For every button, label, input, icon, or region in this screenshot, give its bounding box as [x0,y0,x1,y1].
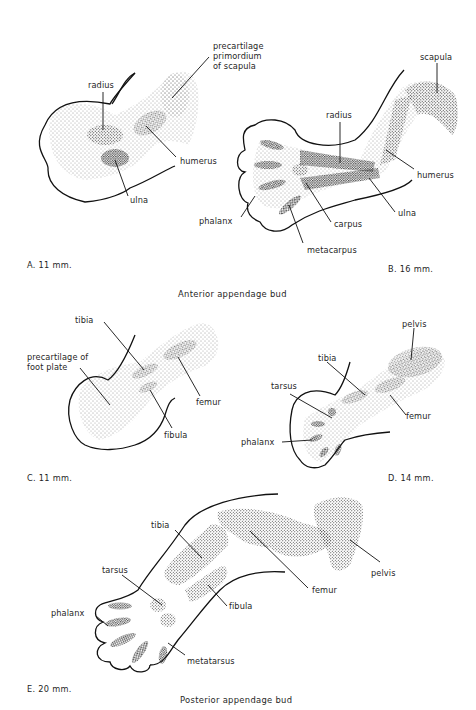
panel-e-leader-tarsus [122,575,162,605]
panel-d-drawing [282,328,446,468]
panel-e-leader-fibula [208,585,227,606]
label-b-scapula: scapula [420,52,452,62]
label-c-fibula: fibula [164,430,187,440]
caption-panel-d: D. 14 mm. [388,473,434,483]
label-e-pelvis: pelvis [371,568,396,578]
label-b-humerus: humerus [417,170,454,180]
label-b-metacarpus: metacarpus [307,245,357,255]
panel-b-drawing [238,63,458,243]
panel-c-limb [79,323,219,440]
label-b-phalanx: phalanx [199,216,232,226]
label-e-fibula: fibula [229,601,252,611]
label-d-femur: femur [406,411,431,421]
panel-e-leader-phalanx [96,616,108,626]
caption-panel-b: B. 16 mm. [388,264,433,274]
label-e-phalanx: phalanx [51,608,84,618]
panel-e-digits [105,598,176,665]
section-title-anterior: Anterior appendage bud [178,289,287,299]
label-c-femur: femur [196,397,221,407]
label-e-tibia: tibia [151,520,169,530]
panel-c-drawing [69,322,219,450]
label-e-femur: femur [312,585,337,595]
panel-b-leader-metacarpus [289,205,303,243]
panel-e-drawing [95,494,380,672]
label-d-phalanx: phalanx [241,437,274,447]
caption-panel-e: E. 20 mm. [27,684,72,694]
caption-panel-a: A. 11 mm. [27,260,72,270]
panel-a-ulna-condensation [101,149,129,167]
label-a-ulna: ulna [130,195,148,205]
label-c-tibia: tibia [75,315,93,325]
label-d-pelvis: pelvis [402,319,427,329]
label-b-radius: radius [326,110,352,120]
label-a-scapula-primordium: precartilage primordium of scapula [213,41,264,71]
section-title-posterior: Posterior appendage bud [180,695,292,705]
panel-b-leader-ulna [369,178,395,212]
panel-b-carpus [292,164,308,176]
label-c-foot-plate: precartilage of foot plate [27,352,88,372]
label-d-tibia: tibia [318,353,336,363]
label-b-ulna: ulna [398,208,416,218]
label-a-humerus: humerus [180,156,217,166]
panel-a-radius-condensation [87,125,123,145]
label-a-radius: radius [88,80,114,90]
panel-e-pelvis [314,498,363,571]
label-d-tarsus: tarsus [271,381,297,391]
label-e-tarsus: tarsus [102,565,128,575]
panel-a-drawing [39,57,209,202]
label-e-metatarsus: metatarsus [187,656,235,666]
panel-c-leader-tibia [104,322,144,370]
panel-e-femur [217,509,331,557]
panel-d-leader-tibia [327,362,365,395]
panel-e-leader-metatarsus [168,643,185,655]
label-b-carpus: carpus [334,219,362,229]
panel-c-leader-fibula [150,390,172,428]
caption-panel-c: C. 11 mm. [27,473,72,483]
